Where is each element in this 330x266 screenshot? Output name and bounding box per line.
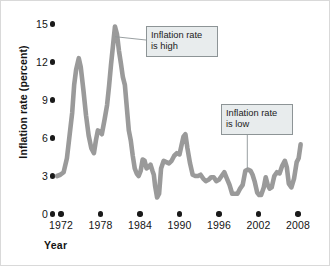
annotation-high-line1: Inflation rate — [151, 30, 213, 41]
top-border — [0, 0, 330, 1]
left-border — [0, 0, 1, 266]
annotation-high-line2: is high — [151, 41, 213, 52]
annotation-low-line2: is low — [226, 119, 288, 130]
inflation-rate-chart: Inflation rate (percent) 15 12 9 6 3 0 1… — [0, 0, 330, 266]
annotation-inflation-low: Inflation rate is low — [221, 104, 293, 135]
annotation-low-line1: Inflation rate — [226, 108, 288, 119]
annotation-inflation-high: Inflation rate is high — [146, 26, 218, 57]
